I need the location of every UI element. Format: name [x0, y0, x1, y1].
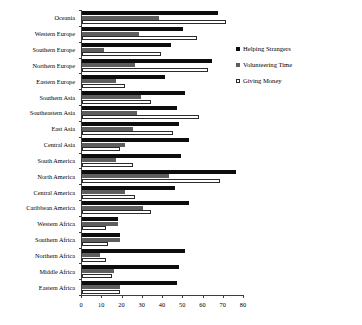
bar-group: [82, 233, 244, 246]
bar-helping: [82, 138, 189, 142]
category-label: Eastern Africa: [39, 284, 75, 291]
bar-group: [82, 249, 244, 262]
bar-volunteering: [82, 206, 143, 210]
y-tick: [79, 216, 81, 217]
bar-group: [82, 27, 244, 40]
bar-helping: [82, 106, 177, 110]
bar-giving: [82, 131, 173, 135]
x-tick: [182, 295, 183, 298]
bar-giving: [82, 20, 226, 24]
bar-volunteering: [82, 48, 104, 52]
bar-volunteering: [82, 63, 135, 67]
bar-helping: [82, 201, 189, 205]
bar-helping: [82, 91, 185, 95]
bar-volunteering: [82, 285, 120, 289]
bar-group: [82, 265, 244, 278]
bar-volunteering: [82, 32, 139, 36]
legend-item: Giving Money: [236, 76, 356, 85]
bar-volunteering: [82, 143, 125, 147]
bar-helping: [82, 43, 171, 47]
category-label: Oceania: [54, 14, 75, 21]
category-label: Caribbean America: [26, 204, 75, 211]
y-tick: [79, 263, 81, 264]
bar-group: [82, 170, 244, 183]
bar-group: [82, 138, 244, 151]
bar-group: [82, 59, 244, 72]
x-tick-label: 40: [154, 301, 170, 309]
y-tick: [79, 200, 81, 201]
bar-group: [82, 201, 244, 214]
bar-volunteering: [82, 158, 116, 162]
bar-volunteering: [82, 190, 125, 194]
x-tick: [203, 295, 204, 298]
bar-helping: [82, 122, 179, 126]
y-tick: [79, 89, 81, 90]
bar-volunteering: [82, 127, 133, 131]
bar-group: [82, 106, 244, 119]
bar-giving: [82, 147, 120, 151]
bar-giving: [82, 115, 199, 119]
x-tick: [101, 295, 102, 298]
category-label: Southern Europe: [33, 46, 76, 53]
legend-label: Helping Strangers: [243, 45, 291, 53]
x-tick-label: 80: [235, 301, 251, 309]
bar-giving: [82, 84, 125, 88]
category-label: Northern Africa: [35, 252, 75, 259]
bar-helping: [82, 154, 181, 158]
legend-swatch-icon: [236, 47, 240, 51]
legend-swatch-icon: [236, 63, 240, 67]
x-tick: [122, 295, 123, 298]
plot-area: 01020304050607080: [81, 10, 243, 295]
bar-helping: [82, 75, 165, 79]
y-tick: [79, 248, 81, 249]
category-label: Central America: [34, 189, 75, 196]
x-tick: [162, 295, 163, 298]
bar-helping: [82, 249, 185, 253]
category-label: East Asia: [51, 125, 75, 132]
y-tick: [79, 295, 81, 296]
bar-helping: [82, 170, 236, 174]
y-tick: [79, 26, 81, 27]
x-tick: [142, 295, 143, 298]
category-axis-labels: OceaniaWestern EuropeSouthern EuropeNort…: [0, 10, 78, 295]
y-tick: [79, 73, 81, 74]
bar-volunteering: [82, 95, 141, 99]
bar-group: [82, 186, 244, 199]
legend-swatch-icon: [236, 79, 240, 83]
bar-giving: [82, 242, 108, 246]
bar-giving: [82, 52, 161, 56]
bar-volunteering: [82, 174, 169, 178]
x-tick-label: 50: [174, 301, 190, 309]
x-tick-label: 10: [93, 301, 109, 309]
bar-giving: [82, 36, 197, 40]
y-tick: [79, 10, 81, 11]
y-tick: [79, 105, 81, 106]
y-tick: [79, 58, 81, 59]
category-label: Southeastern Asia: [30, 109, 75, 116]
bar-giving: [82, 163, 133, 167]
bar-giving: [82, 195, 135, 199]
bar-giving: [82, 274, 112, 278]
x-tick-label: 20: [114, 301, 130, 309]
legend-item: Helping Strangers: [236, 44, 356, 53]
y-tick: [79, 184, 81, 185]
bar-helping: [82, 265, 179, 269]
bar-giving: [82, 68, 208, 72]
category-label: Western Europe: [35, 30, 75, 37]
legend-label: Volunteering Time: [243, 61, 292, 69]
y-tick: [79, 153, 81, 154]
bar-volunteering: [82, 238, 120, 242]
bar-chart: OceaniaWestern EuropeSouthern EuropeNort…: [0, 0, 362, 325]
bar-volunteering: [82, 253, 100, 257]
bar-helping: [82, 27, 183, 31]
bar-group: [82, 217, 244, 230]
bar-helping: [82, 186, 175, 190]
legend-label: Giving Money: [243, 77, 282, 85]
x-tick: [223, 295, 224, 298]
bar-group: [82, 43, 244, 56]
bar-volunteering: [82, 222, 118, 226]
x-tick-label: 0: [73, 301, 89, 309]
y-tick: [79, 279, 81, 280]
bar-helping: [82, 59, 212, 63]
bar-helping: [82, 233, 120, 237]
